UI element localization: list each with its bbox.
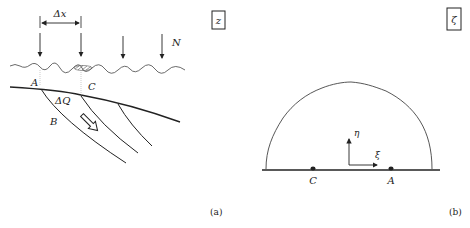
point-a-label: A [30,77,38,88]
point-c-label: C [88,81,96,92]
panel-b-box-label: ζ [447,8,461,30]
eta-label: η [354,128,360,138]
wavy-surface [10,63,185,73]
panel-b: ζ C A η ξ (b) [262,8,462,217]
figure-canvas: z Δx N A C [0,0,470,228]
svg-text:z: z [215,15,222,26]
top-slope-line [10,87,180,122]
caption-a: (a) [210,207,222,217]
caption-b: (b) [449,207,462,217]
point-c-label-b: C [309,175,317,186]
panel-a: z Δx N A C [10,8,225,217]
downward-flux-arrows [40,33,162,58]
point-b-label: B [49,116,57,127]
hollow-flow-arrow-icon [78,111,101,134]
flow-line-3 [118,104,152,146]
point-a-dot [389,167,394,171]
delta-x-dimension: Δx [40,8,81,28]
svg-text:ζ: ζ [451,14,457,25]
point-a-label-b: A [386,175,394,186]
xi-label: ξ [375,150,381,160]
svg-text:Δx: Δx [53,8,67,19]
point-c-dot [311,167,316,171]
panel-a-box-label: z [212,11,225,29]
delta-q-label: ΔQ [54,95,70,106]
flow-label-n: N [171,37,182,48]
